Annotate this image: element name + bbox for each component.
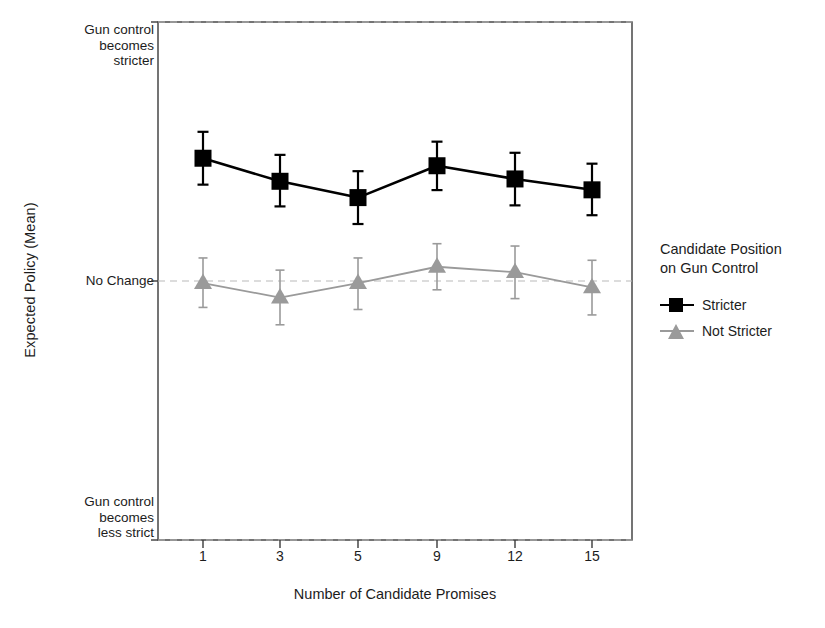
legend-item-not-stricter[interactable]: Not Stricter bbox=[660, 318, 820, 344]
legend-item-stricter[interactable]: Stricter bbox=[660, 292, 820, 318]
chart-figure: Expected Policy (Mean) Gun control becom… bbox=[0, 0, 825, 628]
chart-legend: Candidate Position on Gun Control Strict… bbox=[660, 240, 820, 344]
legend-title: Candidate Position on Gun Control bbox=[660, 240, 820, 278]
x-axis-tick-marks bbox=[203, 540, 592, 548]
plot-frame bbox=[158, 22, 632, 540]
legend-title-line2: on Gun Control bbox=[660, 259, 820, 278]
y-tick-bottom-line1: Gun control bbox=[46, 494, 154, 510]
y-tick-top-line1: Gun control bbox=[46, 22, 154, 38]
legend-label-stricter: Stricter bbox=[702, 297, 746, 313]
x-axis-title: Number of Candidate Promises bbox=[158, 586, 632, 602]
series-layer bbox=[194, 132, 601, 325]
x-tick-label-12: 12 bbox=[495, 548, 535, 564]
y-tick-label-middle: No Change bbox=[46, 273, 154, 289]
x-tick-label-5: 5 bbox=[338, 548, 378, 564]
y-axis-title: Expected Policy (Mean) bbox=[10, 0, 50, 560]
x-tick-label-15: 15 bbox=[572, 548, 612, 564]
y-tick-label-bottom: Gun control becomes less strict bbox=[46, 494, 154, 541]
y-tick-bottom-line2: becomes bbox=[46, 510, 154, 526]
y-tick-top-line3: stricter bbox=[46, 53, 154, 69]
legend-title-line1: Candidate Position bbox=[660, 240, 820, 259]
x-tick-label-3: 3 bbox=[260, 548, 300, 564]
y-tick-label-top: Gun control becomes stricter bbox=[46, 22, 154, 69]
reference-lines bbox=[158, 22, 632, 540]
x-tick-label-9: 9 bbox=[417, 548, 457, 564]
y-tick-top-line2: becomes bbox=[46, 38, 154, 54]
y-tick-middle-line1: No Change bbox=[46, 273, 154, 289]
legend-label-not-stricter: Not Stricter bbox=[702, 323, 772, 339]
x-tick-label-1: 1 bbox=[183, 548, 223, 564]
y-tick-bottom-line3: less strict bbox=[46, 525, 154, 541]
legend-marker-triangle-icon bbox=[660, 321, 694, 341]
legend-marker-square-icon bbox=[660, 295, 694, 315]
y-axis-title-text: Expected Policy (Mean) bbox=[22, 202, 38, 357]
